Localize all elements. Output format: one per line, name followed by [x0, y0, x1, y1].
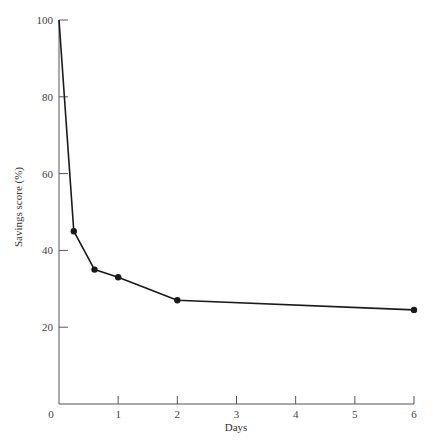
origin-label: 0	[48, 408, 54, 420]
savings-curve-chart: 12345620406080100 0 Days Savings score (…	[0, 0, 433, 446]
axes	[59, 20, 414, 404]
series-line	[59, 20, 414, 310]
x-tick-label: 4	[293, 408, 299, 420]
x-tick-label: 1	[115, 408, 121, 420]
y-axis-label: Savings score (%)	[12, 167, 25, 247]
ticks: 12345620406080100	[37, 14, 418, 420]
data-series	[59, 20, 417, 313]
x-axis-label: Days	[225, 421, 248, 433]
y-tick-label: 60	[42, 168, 54, 180]
y-tick-label: 20	[42, 321, 54, 333]
data-point-marker	[174, 297, 180, 303]
data-point-marker	[71, 228, 77, 234]
data-point-marker	[411, 307, 417, 313]
x-tick-label: 6	[411, 408, 417, 420]
y-tick-label: 100	[37, 14, 54, 26]
data-point-marker	[115, 274, 121, 280]
data-point-marker	[91, 266, 97, 272]
y-tick-label: 40	[42, 244, 54, 256]
y-tick-label: 80	[42, 91, 54, 103]
x-tick-label: 2	[175, 408, 181, 420]
x-tick-label: 5	[352, 408, 358, 420]
x-tick-label: 3	[234, 408, 240, 420]
